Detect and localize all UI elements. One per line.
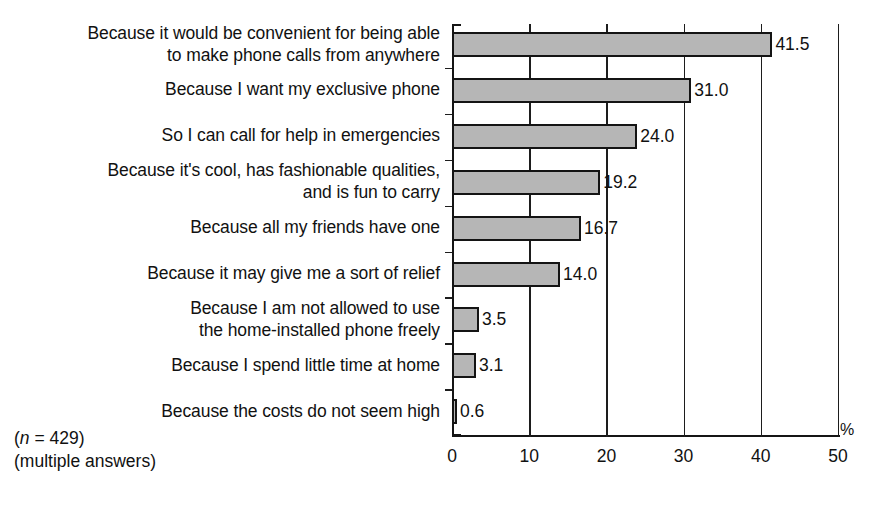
y-axis-tick-6 bbox=[445, 297, 452, 299]
category-label-column: Because it would be convenient for being… bbox=[0, 0, 446, 437]
x-axis-tick-label-10: 10 bbox=[519, 446, 538, 466]
x-axis-tick-label-20: 20 bbox=[597, 446, 616, 466]
y-axis-tick-3 bbox=[445, 160, 452, 162]
bar bbox=[452, 399, 457, 424]
category-label: Because it may give me a sort of relief bbox=[147, 262, 440, 284]
bar bbox=[452, 307, 479, 332]
gridline-40 bbox=[761, 24, 762, 437]
category-label: Because I spend little time at home bbox=[171, 354, 440, 376]
y-axis-tick-4 bbox=[445, 206, 452, 208]
bar-value-label: 14.0 bbox=[563, 262, 597, 287]
bar-value-label: 16.7 bbox=[584, 216, 618, 241]
y-axis-tick-7 bbox=[445, 343, 452, 345]
x-axis-tick-label-40: 40 bbox=[751, 446, 770, 466]
category-label: Because all my friends have one bbox=[190, 216, 440, 238]
category-label: So I can call for help in emergencies bbox=[162, 124, 440, 146]
category-label: Because it would be convenient for being… bbox=[87, 22, 440, 66]
category-label: Because I am not allowed to use the home… bbox=[190, 297, 440, 341]
bar bbox=[452, 262, 560, 287]
y-axis-tick-8 bbox=[445, 389, 452, 391]
bar-value-label: 31.0 bbox=[694, 78, 728, 103]
multiple-answers-note: (multiple answers) bbox=[14, 450, 156, 473]
bar bbox=[452, 32, 772, 57]
bar-value-label: 3.5 bbox=[482, 307, 506, 332]
bar bbox=[452, 170, 600, 195]
y-axis-tick-2 bbox=[445, 114, 452, 116]
category-label: Because I want my exclusive phone bbox=[165, 78, 440, 100]
y-axis-tick-1 bbox=[445, 68, 452, 70]
bar-value-label: 41.5 bbox=[775, 32, 809, 57]
sample-size-value: = 429) bbox=[30, 428, 85, 448]
category-label: Because it's cool, has fashionable quali… bbox=[107, 159, 440, 203]
bar bbox=[452, 124, 637, 149]
category-label: Because the costs do not seem high bbox=[161, 400, 440, 422]
percent-unit-label: % bbox=[840, 421, 854, 439]
bar bbox=[452, 353, 476, 378]
y-axis-bottom-cap bbox=[452, 434, 461, 436]
y-axis-top-cap bbox=[452, 24, 461, 26]
bar-value-label: 3.1 bbox=[479, 353, 503, 378]
y-axis-tick-5 bbox=[445, 252, 452, 254]
plot-area: 41.531.024.019.216.714.03.53.10.6 bbox=[452, 24, 838, 437]
x-axis-tick-label-0: 0 bbox=[447, 446, 457, 466]
gridline-50 bbox=[838, 24, 839, 437]
bar-value-label: 0.6 bbox=[460, 399, 484, 424]
bar bbox=[452, 78, 691, 103]
x-axis-line bbox=[452, 435, 840, 437]
chart-footnotes: (n = 429) (multiple answers) bbox=[14, 427, 156, 473]
bar-value-label: 19.2 bbox=[603, 170, 637, 195]
sample-size-variable: n bbox=[20, 428, 30, 448]
bar-value-label: 24.0 bbox=[640, 124, 674, 149]
x-axis-tick-label-50: 50 bbox=[828, 446, 847, 466]
horizontal-bar-chart: Because it would be convenient for being… bbox=[0, 0, 888, 508]
sample-size-note: (n = 429) bbox=[14, 427, 156, 450]
bar bbox=[452, 216, 581, 241]
x-axis-tick-label-30: 30 bbox=[674, 446, 693, 466]
